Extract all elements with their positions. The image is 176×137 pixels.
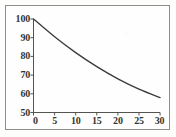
x-tick-label-5: 5 xyxy=(52,116,57,126)
x-tick-label-10: 10 xyxy=(71,116,81,126)
chart-figure: 100 90 80 70 60 50 0 5 10 15 20 25 30 xyxy=(0,0,176,137)
y-tick-label-80: 80 xyxy=(8,51,30,61)
x-tick-label-30: 30 xyxy=(155,116,165,126)
data-series-line xyxy=(34,19,161,98)
y-tick-label-50: 50 xyxy=(8,108,30,118)
y-tick-label-90: 90 xyxy=(8,33,30,43)
x-tick-label-15: 15 xyxy=(92,116,102,126)
x-tick-label-0: 0 xyxy=(33,116,38,126)
y-tick-label-60: 60 xyxy=(8,89,30,99)
y-tick-label-100: 100 xyxy=(8,14,30,24)
y-tick-label-70: 70 xyxy=(8,70,30,80)
x-tick-label-20: 20 xyxy=(113,116,123,126)
x-tick-label-25: 25 xyxy=(134,116,144,126)
